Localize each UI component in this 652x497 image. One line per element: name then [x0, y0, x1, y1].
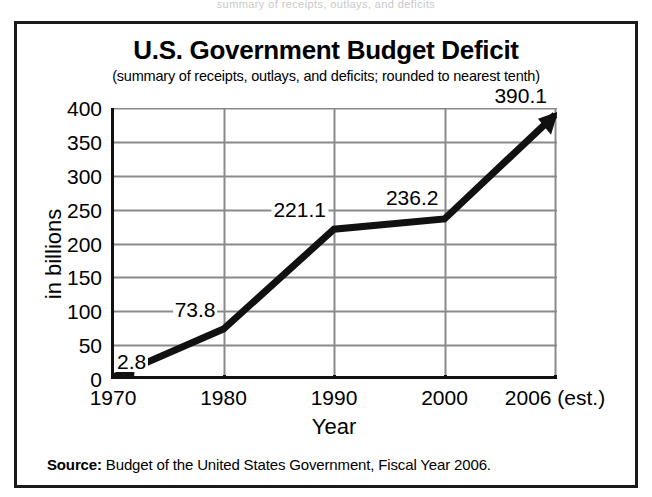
x-axis-tick-label: 1990: [311, 387, 358, 408]
data-point-label: 390.1: [492, 85, 549, 106]
x-axis-tick-label: 2006 (est.): [505, 387, 605, 408]
line-chart-svg: [111, 108, 557, 379]
y-axis-title-label: in billions: [41, 209, 67, 300]
y-axis-tick-label: 250: [67, 199, 102, 220]
y-axis-tick-label: 200: [67, 233, 102, 254]
y-axis-tick-label: 100: [67, 301, 102, 322]
y-axis-tick-label: 400: [67, 98, 102, 119]
chart-subtitle: (summary of receipts, outlays, and defic…: [17, 68, 635, 84]
y-axis-tick-label: 300: [67, 165, 102, 186]
y-axis-tick-label: 50: [79, 335, 102, 356]
page-bleed-text: summary of receipts, outlays, and defici…: [0, 0, 652, 14]
y-axis-tick-label: 350: [67, 131, 102, 152]
plot-area: 050100150200250300350400 197019801990200…: [111, 108, 557, 379]
chart-figure: U.S. Government Budget Deficit (summary …: [14, 21, 638, 488]
x-axis-tick-label: 1970: [90, 387, 137, 408]
page-title: U.S. Government Budget Deficit: [17, 35, 635, 66]
x-axis-tick-label: 2000: [421, 387, 468, 408]
source-text: Budget of the United States Government, …: [102, 456, 491, 473]
x-axis-title: Year: [111, 414, 557, 440]
source-note: Source: Budget of the United States Gove…: [47, 456, 491, 473]
source-label: Source:: [47, 456, 102, 473]
y-axis-tick-label: 150: [67, 267, 102, 288]
data-point-label: 236.2: [384, 187, 441, 208]
data-point-label: 221.1: [271, 199, 328, 220]
y-axis-title: in billions: [39, 129, 69, 379]
data-point-label: 73.8: [173, 299, 218, 320]
data-point-label: 2.8: [115, 351, 148, 372]
x-axis-tick-label: 1980: [200, 387, 247, 408]
